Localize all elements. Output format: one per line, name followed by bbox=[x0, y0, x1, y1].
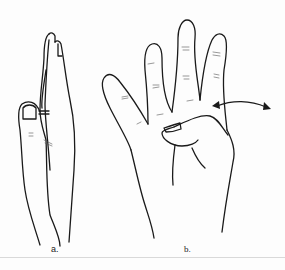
divider-line bbox=[0, 257, 285, 258]
arrow-head-right bbox=[263, 102, 271, 110]
hand-a-drawing bbox=[19, 33, 75, 246]
figure-canvas: a. b. bbox=[0, 0, 285, 270]
arrow-head-left bbox=[212, 101, 220, 109]
panel-a-label: a. bbox=[51, 244, 59, 254]
hand-b-drawing bbox=[102, 20, 271, 238]
panel-b-label: b. bbox=[184, 244, 191, 254]
hands-illustration bbox=[0, 0, 285, 270]
